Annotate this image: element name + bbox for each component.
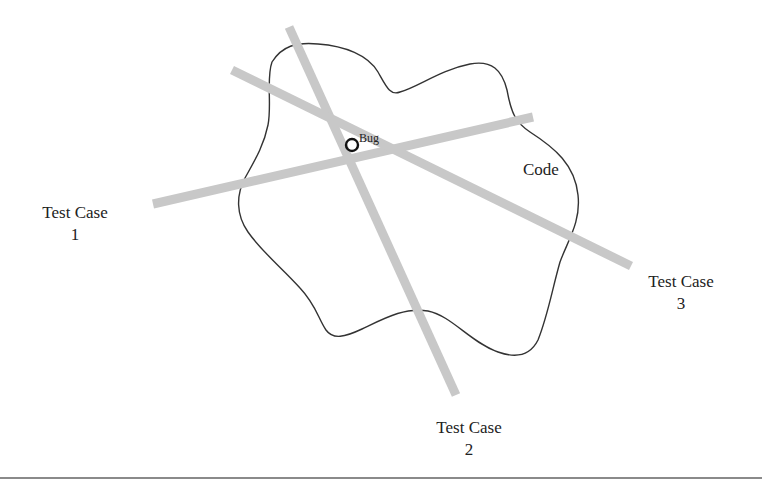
test-case-2-number: 2 <box>409 439 529 461</box>
test-case-1-number: 1 <box>15 224 135 246</box>
test-case-3-label: Test Case 3 <box>621 271 741 315</box>
bottom-separator <box>0 477 762 479</box>
code-region-outline <box>239 44 579 356</box>
test-case-3-number: 3 <box>621 293 741 315</box>
test-case-3-title: Test Case <box>648 272 713 291</box>
test-case-2-label: Test Case 2 <box>409 417 529 461</box>
test-case-2-title: Test Case <box>436 418 501 437</box>
code-region-label: Code <box>523 159 559 181</box>
test-case-1-label: Test Case 1 <box>15 202 135 246</box>
bug-marker-icon <box>346 139 358 151</box>
test-case-2-path <box>289 27 456 395</box>
bug-label: Bug <box>359 131 379 145</box>
test-case-1-title: Test Case <box>42 203 107 222</box>
test-coverage-diagram: Bug Code Test Case 1 Test Case 2 Test Ca… <box>0 0 762 488</box>
